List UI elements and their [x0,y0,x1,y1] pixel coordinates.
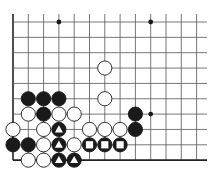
white-stone-icon [21,107,35,121]
white-stone-icon [67,138,81,152]
star-point-icon [148,112,153,117]
black-stone-icon [21,92,35,106]
white-stone-icon [113,122,127,136]
black-stone-icon [21,138,35,152]
square-mark-icon [86,141,93,148]
white-stone-icon [82,122,96,136]
white-stone-icon [52,107,66,121]
square-mark-icon [101,141,108,148]
white-stone-icon [37,122,51,136]
black-stone-icon [6,138,20,152]
white-stone-icon [67,107,81,121]
white-stone-icon [21,153,35,167]
black-stone-icon [128,107,142,121]
go-board-diagram [0,0,213,179]
black-stone-icon [37,107,51,121]
white-stone-icon [98,122,112,136]
black-stone-icon [128,122,142,136]
white-stone-icon [37,153,51,167]
star-point-icon [57,20,62,25]
white-stone-icon [37,138,51,152]
black-stone-icon [52,92,66,106]
white-stone-icon [6,122,20,136]
star-point-icon [148,20,153,25]
white-stone-icon [98,92,112,106]
black-stone-icon [37,92,51,106]
square-mark-icon [117,141,124,148]
white-stone-icon [98,61,112,75]
